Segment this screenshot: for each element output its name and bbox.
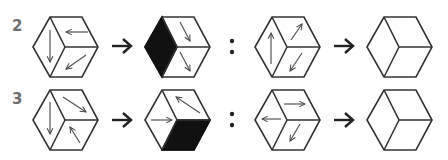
right-arrow-icon	[334, 39, 353, 53]
row3-cube-answer	[367, 90, 432, 150]
row2-cube-source-right	[255, 17, 320, 77]
puzzle-diagram	[0, 0, 448, 160]
colon-separator	[230, 39, 234, 54]
right-arrow-icon	[112, 113, 131, 127]
row3-cube-source-right	[255, 90, 320, 150]
row2-cube-answer	[367, 17, 432, 77]
row2-cube-result-left	[145, 17, 210, 77]
row2-cube-source-left	[33, 17, 98, 77]
right-arrow-icon	[334, 113, 353, 127]
colon-separator	[230, 112, 234, 127]
right-arrow-icon	[112, 39, 131, 53]
